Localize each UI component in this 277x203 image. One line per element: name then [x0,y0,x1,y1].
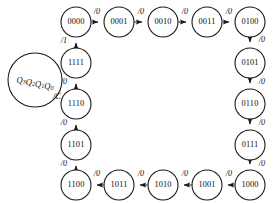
state-node-0110[interactable]: 0110 [235,89,265,119]
state-node-1000[interactable]: 1000 [235,170,265,200]
state-label: 1110 [68,99,85,108]
state-node-0010[interactable]: 0010 [148,7,178,37]
state-node-0011[interactable]: 0011 [192,7,222,37]
legend-layer: Q3Q2Q1Q0/C [8,53,62,107]
state-label: 0000 [67,17,84,26]
state-node-1010[interactable]: 1010 [148,170,178,200]
state-node-1110[interactable]: 1110 [61,89,91,119]
state-node-0000[interactable]: 0000 [61,7,91,37]
state-label: 0010 [154,17,171,26]
transition: /0 [60,159,76,170]
transition: /0 [135,7,145,22]
transition-label: /0 [181,169,188,178]
state-label: 1000 [241,180,258,189]
transition-label: /0 [258,118,265,127]
state-node-0111[interactable]: 0111 [235,130,265,160]
transition-label: /0 [258,77,265,86]
transition: /0 [92,7,101,22]
transition: /0 [225,169,235,185]
transition-label: /0 [60,118,67,127]
transition: /0 [137,169,148,185]
state-label: 0001 [110,17,127,26]
legend-key: Q3Q2Q1Q0/C [8,53,62,107]
transition-label: /0 [93,169,100,178]
transition-label: /0 [137,169,144,178]
output-legend-label: /C [52,92,61,101]
state-node-1111[interactable]: 1111 [61,48,91,78]
transition-label: /0 [137,7,144,16]
state-label: 1011 [111,180,128,189]
transition: /0 [223,7,233,22]
transition-label: /0 [258,159,265,168]
state-node-0001[interactable]: 0001 [104,7,134,37]
transition: /0 [93,169,104,185]
state-node-0100[interactable]: 0100 [235,7,265,37]
state-node-1101[interactable]: 1101 [61,130,91,160]
state-diagram: /0/0/0/0/0/0/0/0/0/0/0/0/0/0/0/1 0000000… [0,0,277,203]
transition: /1 [60,36,76,48]
state-label: 0101 [241,58,258,67]
transition-label: /1 [60,36,67,45]
state-node-1011[interactable]: 1011 [104,170,134,200]
state-label: 1101 [68,140,85,149]
state-node-1001[interactable]: 1001 [192,170,222,200]
transition-label: /0 [181,7,188,16]
transition-label: /0 [225,7,232,16]
transition-label: /0 [225,169,232,178]
state-label: 0100 [241,17,258,26]
state-label: 1010 [154,180,171,189]
state-label: 1001 [198,180,215,189]
transition: /0 [179,7,189,22]
states-layer: 0000000100100011010001010110011110001001… [61,7,265,200]
state-label: 0011 [199,17,216,26]
state-label: 1111 [68,58,84,67]
state-label: 0111 [242,140,259,149]
transition-label: /0 [93,7,100,16]
state-label: 1100 [68,180,85,189]
transition-label: /0 [258,35,265,44]
state-label: 0110 [242,99,259,108]
state-node-1100[interactable]: 1100 [61,170,91,200]
transition: /0 [60,118,76,130]
fsm-canvas: /0/0/0/0/0/0/0/0/0/0/0/0/0/0/0/1 0000000… [0,0,277,203]
transition: /0 [181,169,192,185]
state-node-0101[interactable]: 0101 [235,48,265,78]
transition-label: /0 [60,159,67,168]
